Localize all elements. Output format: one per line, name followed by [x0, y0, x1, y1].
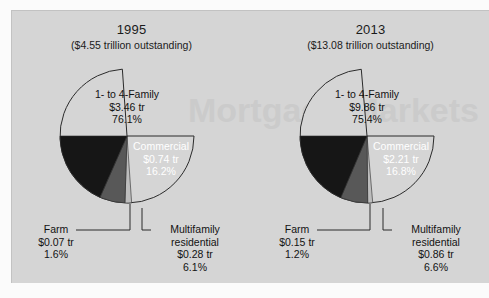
label-name-1: Multifamily [393, 223, 479, 236]
slice-label-farm-1995: Farm $0.07 tr 1.6% [25, 223, 87, 261]
pie-panel-1995: 1995 ($4.55 trillion outstanding) 1- to … [12, 11, 251, 283]
pie-panel-2013: 2013 ($13.08 trillion outstanding) 1- to… [251, 11, 489, 283]
label-percent: 1.6% [25, 248, 87, 261]
slice-label-multifamily-1995: Multifamily residential $0.28 tr 6.1% [152, 223, 238, 273]
label-name-1: Multifamily [152, 223, 238, 236]
label-name-2: residential [152, 236, 238, 249]
figure-panel: Mortgage Markets 1995 ($4.55 trillion ou… [11, 10, 489, 283]
label-percent: 6.6% [393, 261, 479, 274]
label-name: Farm [266, 223, 328, 236]
leader-line-multifamily-1995 [142, 208, 151, 230]
label-value: $0.07 tr [25, 236, 87, 249]
label-value: $0.28 tr [152, 248, 238, 261]
leader-line-multifamily-2013 [383, 208, 392, 230]
label-value: $0.15 tr [266, 236, 328, 249]
slice-label-multifamily-2013: Multifamily residential $0.86 tr 6.6% [393, 223, 479, 273]
slice-label-farm-2013: Farm $0.15 tr 1.2% [266, 223, 328, 261]
label-name: Farm [25, 223, 87, 236]
label-percent: 6.1% [152, 261, 238, 274]
label-percent: 1.2% [266, 248, 328, 261]
label-value: $0.86 tr [393, 248, 479, 261]
label-name-2: residential [393, 236, 479, 249]
